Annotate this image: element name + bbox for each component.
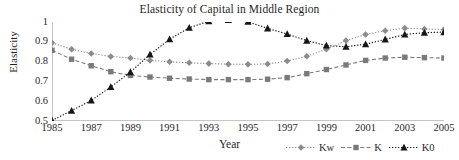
data-point-square xyxy=(353,145,358,150)
y-axis-tick-label: 0.8 xyxy=(22,56,48,66)
data-point-triangle xyxy=(68,107,75,114)
legend-item-k0[interactable]: K0 xyxy=(389,142,435,153)
x-axis-tick-labels: 1985198719891991199319951997199920012003… xyxy=(0,122,459,138)
y-axis-tick-label: 1 xyxy=(22,17,48,27)
data-point-diamond xyxy=(402,25,409,32)
data-point-diamond xyxy=(245,61,252,68)
x-axis-tick-label: 2003 xyxy=(383,122,427,133)
data-point-triangle xyxy=(225,22,232,23)
data-point-square xyxy=(285,75,290,80)
chart-title: Elasticity of Capital in Middle Region xyxy=(0,3,459,15)
data-point-diamond xyxy=(206,60,213,67)
data-point-square xyxy=(441,55,444,60)
data-point-square xyxy=(265,77,270,82)
x-axis-tick-label: 2001 xyxy=(344,122,388,133)
data-point-diamond xyxy=(108,53,115,60)
data-point-square xyxy=(89,63,94,68)
data-point-triangle xyxy=(88,97,95,104)
data-point-square xyxy=(52,48,55,53)
data-point-diamond xyxy=(298,144,305,151)
data-point-diamond xyxy=(225,61,232,68)
legend-marker-square-icon xyxy=(341,142,371,153)
data-point-diamond xyxy=(52,39,55,46)
legend-marker-diamond-icon xyxy=(286,142,316,153)
x-axis-tick-label: 1987 xyxy=(69,122,113,133)
data-point-diamond xyxy=(147,57,154,64)
data-point-triangle xyxy=(382,36,389,43)
x-axis-tick-label: 1995 xyxy=(226,122,270,133)
y-axis-tick-label: 0.7 xyxy=(22,76,48,86)
data-point-triangle xyxy=(421,29,428,36)
legend-label: K0 xyxy=(422,142,435,153)
data-point-diamond xyxy=(127,55,134,62)
data-point-square xyxy=(383,55,388,60)
x-axis-tick-label: 1989 xyxy=(108,122,152,133)
legend-label: Kw xyxy=(319,142,334,153)
data-point-square xyxy=(206,77,211,82)
y-axis-tick-label: 0.6 xyxy=(22,96,48,106)
data-point-square xyxy=(187,76,192,81)
legend-marker-triangle-icon xyxy=(389,142,419,153)
data-point-square xyxy=(324,67,329,72)
data-point-diamond xyxy=(88,50,95,57)
data-point-diamond xyxy=(304,53,311,60)
x-axis-tick-label: 1999 xyxy=(304,122,348,133)
data-point-square xyxy=(402,55,407,60)
data-point-triangle xyxy=(323,42,330,49)
x-axis-tick-label: 1997 xyxy=(265,122,309,133)
data-point-square xyxy=(69,57,74,62)
y-axis-tick-label: 0.9 xyxy=(22,36,48,46)
y-axis-label: Elasticity xyxy=(7,14,19,90)
data-point-diamond xyxy=(186,59,193,66)
data-point-square xyxy=(147,74,152,79)
chart-container: Elasticity of Capital in Middle Region E… xyxy=(0,0,459,160)
x-axis-tick-label: 1991 xyxy=(148,122,192,133)
data-point-diamond xyxy=(166,58,173,65)
data-point-diamond xyxy=(264,61,271,68)
data-point-triangle xyxy=(146,51,153,58)
plot-area xyxy=(52,22,444,121)
data-point-diamond xyxy=(343,37,350,44)
x-axis-tick-label: 2005 xyxy=(422,122,459,133)
legend-item-kw[interactable]: Kw xyxy=(286,142,334,153)
data-point-triangle xyxy=(107,83,114,90)
series-kw xyxy=(52,25,444,68)
data-point-square xyxy=(108,69,113,74)
data-point-triangle xyxy=(362,40,369,47)
data-point-triangle xyxy=(264,25,271,32)
chart-legend: KwKK0 xyxy=(286,140,435,155)
plot-svg xyxy=(52,22,444,121)
data-point-diamond xyxy=(362,31,369,38)
data-point-square xyxy=(422,55,427,60)
data-point-square xyxy=(245,77,250,82)
data-point-diamond xyxy=(382,27,389,34)
data-point-square xyxy=(167,76,172,81)
legend-label: K xyxy=(374,142,382,153)
legend-item-k[interactable]: K xyxy=(341,142,382,153)
data-point-diamond xyxy=(68,46,75,53)
data-point-square xyxy=(343,62,348,67)
data-point-triangle xyxy=(166,35,173,42)
data-point-square xyxy=(363,58,368,63)
x-axis-tick-label: 1985 xyxy=(30,122,74,133)
data-point-square xyxy=(304,71,309,76)
data-point-square xyxy=(226,77,231,82)
x-axis-tick-label: 1993 xyxy=(187,122,231,133)
data-point-diamond xyxy=(284,58,291,65)
data-point-triangle xyxy=(205,22,212,24)
